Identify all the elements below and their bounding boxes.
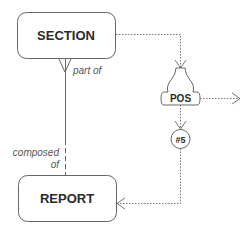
flow-pos-exit [200,93,240,104]
node-step5-label: #5 [175,135,185,145]
node-pos[interactable]: POS [161,68,200,105]
flow-pos-to-step5 [175,105,186,129]
flow-step5-to-report [117,149,181,210]
arrow-down-icon [175,121,186,129]
entity-report[interactable]: REPORT [19,176,117,222]
entity-report-label: REPORT [40,191,94,206]
entity-section-label: SECTION [37,28,95,43]
node-step5[interactable]: #5 [171,130,190,149]
diagram-canvas: SECTION REPORT part of composed of POS #… [0,0,251,235]
relationship-label-composed: composed [13,147,60,158]
relationship-label-of: of [51,159,61,170]
relationship-part-of[interactable]: part of composed of [13,59,103,175]
relationship-label-part-of: part of [72,65,103,76]
flow-section-to-pos [116,35,186,69]
entity-section[interactable]: SECTION [18,13,116,59]
node-pos-label: POS [170,93,191,104]
